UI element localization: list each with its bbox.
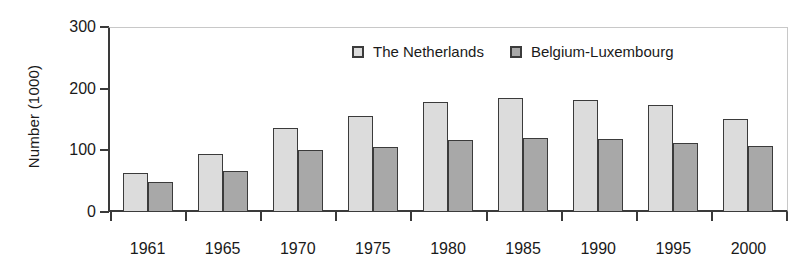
x-axis-tick-label: 1990 — [561, 240, 636, 258]
x-axis-tick — [636, 212, 638, 221]
y-axis-tick-label: 0 — [40, 203, 96, 221]
bar-netherlands — [423, 102, 448, 212]
x-axis-tick-label: 1995 — [636, 240, 711, 258]
x-axis-tick-label: 1975 — [335, 240, 410, 258]
bar-belgium-luxembourg — [598, 139, 623, 212]
bar-netherlands — [348, 116, 373, 212]
bar-belgium-luxembourg — [148, 182, 173, 212]
x-axis-tick — [410, 212, 412, 221]
bar-belgium-luxembourg — [448, 140, 473, 212]
y-axis-tick-label: 300 — [40, 18, 96, 36]
bar-belgium-luxembourg — [673, 143, 698, 212]
bar-belgium-luxembourg — [298, 150, 323, 212]
x-axis-tick — [486, 212, 488, 221]
bar-belgium-luxembourg — [373, 147, 398, 212]
x-axis-tick — [185, 212, 187, 221]
bar-belgium-luxembourg — [748, 146, 773, 212]
y-axis-tick-label: 100 — [40, 141, 96, 159]
bar-netherlands — [123, 173, 148, 212]
x-axis-tick-label: 1980 — [410, 240, 485, 258]
bar-group — [711, 27, 786, 212]
legend-item-belgium-luxembourg: Belgium-Luxembourg — [510, 43, 674, 60]
legend-label-belgium-luxembourg: Belgium-Luxembourg — [531, 43, 674, 60]
bar-belgium-luxembourg — [223, 171, 248, 212]
bar-netherlands — [573, 100, 598, 212]
x-axis-tick-label: 1970 — [260, 240, 335, 258]
x-axis-tick — [260, 212, 262, 221]
bar-netherlands — [198, 154, 223, 212]
chart-legend: The Netherlands Belgium-Luxembourg — [352, 43, 673, 60]
x-axis-tick — [110, 212, 112, 221]
x-axis-tick — [786, 212, 788, 221]
bar-netherlands — [648, 105, 673, 212]
bar-belgium-luxembourg — [523, 138, 548, 212]
x-axis-tick-label: 1965 — [185, 240, 260, 258]
legend-item-netherlands: The Netherlands — [352, 43, 484, 60]
bar-group — [260, 27, 335, 212]
x-axis-tick-label: 1961 — [110, 240, 185, 258]
bar-chart-figure: Number (1000) 0100200300 196119651970197… — [0, 0, 796, 273]
x-axis-tick-label: 1985 — [486, 240, 561, 258]
y-axis-title: Number (1000) — [25, 32, 42, 202]
bar-netherlands — [273, 128, 298, 212]
x-axis-tick-label: 2000 — [711, 240, 786, 258]
x-axis-tick — [711, 212, 713, 221]
bar-group — [185, 27, 260, 212]
legend-swatch-icon-netherlands — [352, 46, 364, 58]
x-axis-tick — [335, 212, 337, 221]
legend-label-netherlands: The Netherlands — [373, 43, 484, 60]
bar-netherlands — [498, 98, 523, 212]
legend-swatch-icon-belgium-luxembourg — [510, 46, 522, 58]
bar-netherlands — [723, 119, 748, 212]
bar-group — [110, 27, 185, 212]
y-axis-tick-label: 200 — [40, 80, 96, 98]
x-axis-tick — [561, 212, 563, 221]
